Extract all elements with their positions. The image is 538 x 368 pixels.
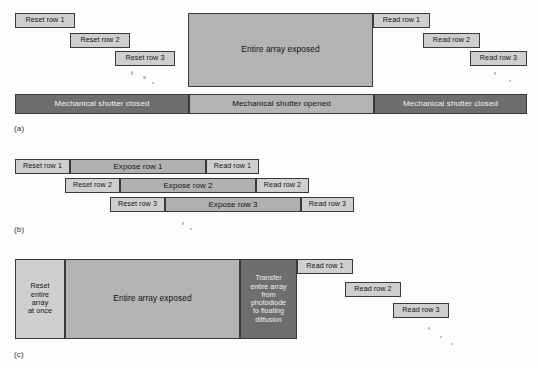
read-row-2-label-b: Read row 2 [264,181,301,189]
read-row-1-block-b: Read row 1 [206,159,259,174]
scan-speckle [451,343,453,345]
scan-speckle [494,72,496,75]
reset-row-2-block: Reset row 2 [70,33,130,48]
entire-array-exposed-label-a: Entire array exposed [241,45,319,55]
expose-row-1-label: Expose row 1 [113,162,162,171]
expose-row-3-label: Expose row 3 [208,200,257,209]
read-row-1-label-a: Read row 1 [383,16,420,24]
entire-array-exposed-block-c: Entire array exposed [65,259,240,339]
reset-row-2-label: Reset row 2 [81,36,120,44]
scan-speckle [131,71,133,75]
shutter-closed-left: Mechanical shutter closed [15,94,189,114]
read-row-1-label-b: Read row 1 [214,162,251,170]
reset-row-3-label: Reset row 3 [126,54,165,62]
read-row-3-block-b: Read row 3 [301,197,354,212]
scan-speckle [428,327,430,330]
expose-row-2-block: Expose row 2 [120,178,256,193]
reset-entire-array-block: Reset entire array at once [15,259,65,339]
transfer-entire-array-block: Transfer entire array from photodiode to… [240,259,297,339]
reset-row-1-block-b: Reset row 1 [15,159,70,174]
read-row-2-block-a: Read row 2 [423,33,480,48]
scan-speckle [190,228,192,230]
scan-speckle [509,80,511,82]
reset-row-1-label-b: Reset row 1 [23,162,62,170]
read-row-2-block-c: Read row 2 [345,282,401,297]
read-row-3-block-c: Read row 3 [393,303,449,318]
reset-row-2-block-b: Reset row 2 [65,178,120,193]
reset-row-3-block: Reset row 3 [115,51,175,66]
read-row-3-label-c: Read row 3 [402,306,439,314]
reset-row-1-block: Reset row 1 [15,13,75,28]
reset-row-2-label-b: Reset row 2 [73,181,112,189]
scan-speckle [152,82,154,84]
panel-b-label: (b) [14,225,24,234]
reset-row-3-block-b: Reset row 3 [110,197,165,212]
read-row-2-label-c: Read row 2 [354,285,391,293]
read-row-1-label-c: Read row 1 [306,262,343,270]
reset-row-1-label: Reset row 1 [26,16,65,24]
reset-entire-array-label: Reset entire array at once [28,282,52,316]
read-row-3-block-a: Read row 3 [470,51,527,66]
read-row-1-block-a: Read row 1 [373,13,430,28]
read-row-2-block-b: Read row 2 [256,178,309,193]
figure-canvas: Reset row 1 Reset row 2 Reset row 3 Enti… [0,0,538,368]
read-row-2-label-a: Read row 2 [433,36,470,44]
shutter-opened-label: Mechanical shutter opened [232,99,331,108]
reset-row-3-label-b: Reset row 3 [118,200,157,208]
entire-array-exposed-block-a: Entire array exposed [188,13,373,87]
scan-speckle [440,336,442,338]
expose-row-2-label: Expose row 2 [163,181,212,190]
read-row-1-block-c: Read row 1 [297,259,353,274]
read-row-3-label-a: Read row 3 [480,54,517,62]
expose-row-1-block: Expose row 1 [70,159,206,174]
shutter-closed-left-label: Mechanical shutter closed [55,99,150,108]
shutter-opened: Mechanical shutter opened [189,94,374,114]
read-row-3-label-b: Read row 3 [309,200,346,208]
scan-speckle [182,222,184,225]
panel-a-label: (a) [14,124,24,133]
entire-array-exposed-label-c: Entire array exposed [113,294,191,304]
transfer-entire-array-label: Transfer entire array from photodiode to… [250,274,286,324]
scan-speckle [143,76,146,79]
shutter-closed-right: Mechanical shutter closed [374,94,527,114]
expose-row-3-block: Expose row 3 [165,197,301,212]
panel-c-label: (c) [14,350,24,359]
shutter-closed-right-label: Mechanical shutter closed [403,99,498,108]
